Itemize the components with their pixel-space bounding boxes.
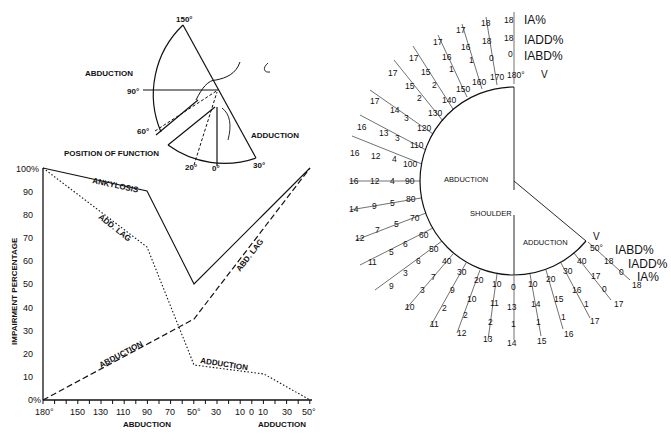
legend-iabd-right: IABD%	[615, 243, 654, 257]
svg-text:120: 120	[417, 123, 431, 133]
svg-text:17: 17	[590, 316, 600, 326]
legend-iadd-top: IADD%	[524, 33, 564, 47]
svg-text:40: 40	[442, 256, 452, 266]
svg-text:9: 9	[389, 281, 394, 291]
svg-text:15: 15	[537, 336, 547, 346]
ankylosis-annotation: ANKYLOSIS	[92, 176, 140, 195]
svg-text:5: 5	[389, 247, 394, 257]
adduction-spoke-values: 10 14 1 15 20 15 1 16 30 16 1 17 40 17 0…	[528, 243, 642, 346]
abduction-annotation: ABDUCTION	[98, 339, 145, 370]
abd-lag-line	[43, 168, 310, 400]
svg-text:15: 15	[421, 67, 431, 77]
y-tick-20: 20	[23, 349, 33, 359]
svg-text:17: 17	[456, 25, 466, 35]
svg-text:18: 18	[504, 15, 514, 25]
svg-text:7: 7	[431, 272, 436, 282]
svg-text:90: 90	[405, 176, 415, 186]
svg-text:4: 4	[390, 176, 395, 186]
svg-text:16: 16	[461, 42, 471, 52]
y-tick-50: 50	[23, 279, 33, 289]
svg-text:16: 16	[572, 285, 582, 295]
schematic-abduction-label: ABDUCTION	[85, 69, 133, 78]
abd-lag-annotation: ABD. LAG	[234, 237, 265, 273]
y-tick-90: 90	[23, 187, 33, 197]
svg-text:30: 30	[457, 267, 467, 277]
top-legend: V IA% IADD% IABD%	[524, 13, 564, 80]
x-tick-90: 90	[142, 407, 152, 417]
svg-text:3: 3	[403, 268, 408, 278]
body-contour	[222, 108, 230, 140]
head-contour	[264, 63, 270, 72]
x-axis-tick-labels: 180° 150 130 110 90 70 50° 30 10 0 10 30…	[35, 407, 316, 417]
svg-text:10: 10	[492, 279, 502, 289]
legend-ia-top: IA%	[524, 13, 546, 27]
svg-text:17: 17	[433, 37, 443, 47]
shoulder-range-schematic	[143, 25, 270, 166]
svg-text:180°: 180°	[507, 70, 525, 80]
abduction-spoke-values: 180° 0 18 18 170 0 18 18 160 1 16 17 150…	[349, 15, 525, 348]
y-tick-0: 0%	[28, 395, 41, 405]
svg-text:2: 2	[463, 310, 468, 320]
svg-text:1: 1	[469, 55, 474, 65]
svg-text:12: 12	[355, 233, 365, 243]
svg-text:1: 1	[511, 319, 516, 329]
svg-text:16: 16	[564, 329, 574, 339]
svg-text:18: 18	[504, 33, 514, 43]
adduction-arc	[168, 145, 256, 163]
svg-text:17: 17	[591, 271, 601, 281]
svg-text:0: 0	[489, 53, 494, 63]
svg-text:14: 14	[349, 204, 359, 214]
svg-text:0: 0	[508, 49, 513, 59]
svg-text:15: 15	[405, 81, 415, 91]
impairment-line-chart	[43, 168, 312, 404]
svg-text:14: 14	[390, 105, 400, 115]
svg-text:50: 50	[429, 244, 439, 254]
angle-label-20: 20°	[185, 163, 197, 172]
svg-text:110: 110	[410, 140, 424, 150]
svg-text:11: 11	[490, 298, 499, 308]
svg-text:50°: 50°	[590, 243, 603, 253]
svg-text:16: 16	[350, 148, 360, 158]
arm-upper-line	[156, 100, 198, 135]
svg-text:17: 17	[409, 53, 419, 63]
svg-text:16: 16	[357, 122, 367, 132]
svg-text:2: 2	[442, 303, 447, 313]
svg-text:20: 20	[546, 274, 556, 284]
svg-text:12: 12	[370, 176, 380, 186]
x-tick-0: 0	[249, 407, 254, 417]
svg-text:1: 1	[536, 317, 541, 327]
svg-text:16: 16	[349, 176, 359, 186]
y-tick-70: 70	[23, 233, 33, 243]
svg-text:9: 9	[450, 285, 455, 295]
adduction-boundary	[514, 181, 586, 241]
legend-iadd-right: IADD%	[628, 257, 668, 271]
svg-text:3: 3	[395, 133, 400, 143]
svg-text:1: 1	[449, 64, 454, 74]
x-tick-150: 150	[70, 407, 85, 417]
svg-text:5: 5	[394, 219, 399, 229]
angle-label-30: 30°	[253, 161, 265, 170]
v-label-top: V	[541, 69, 548, 80]
svg-text:2: 2	[417, 93, 422, 103]
svg-text:4: 4	[392, 154, 397, 164]
y-tick-60: 60	[23, 256, 33, 266]
svg-text:6: 6	[403, 239, 408, 249]
svg-text:5: 5	[390, 198, 395, 208]
add-lag-line	[43, 168, 310, 400]
svg-text:18: 18	[604, 256, 614, 266]
figure-canvas: 150° ABDUCTION 90° 60° ADDUCTION POSITIO…	[0, 0, 671, 440]
svg-text:10: 10	[405, 302, 415, 312]
svg-text:3: 3	[404, 113, 409, 123]
angle-label-0: 0°	[212, 164, 220, 173]
svg-text:70: 70	[410, 213, 420, 223]
svg-text:2: 2	[432, 80, 437, 90]
adduction-annotation: ADDUCTION	[200, 356, 249, 372]
y-tick-80: 80	[23, 210, 33, 220]
y-tick-40: 40	[23, 303, 33, 313]
svg-text:9: 9	[372, 201, 377, 211]
svg-text:100: 100	[403, 159, 417, 169]
ankylosis-line	[43, 168, 310, 284]
svg-text:7: 7	[375, 225, 380, 235]
shoulder-center-label: SHOULDER	[470, 209, 512, 218]
angle-label-90: 90°	[127, 87, 139, 96]
